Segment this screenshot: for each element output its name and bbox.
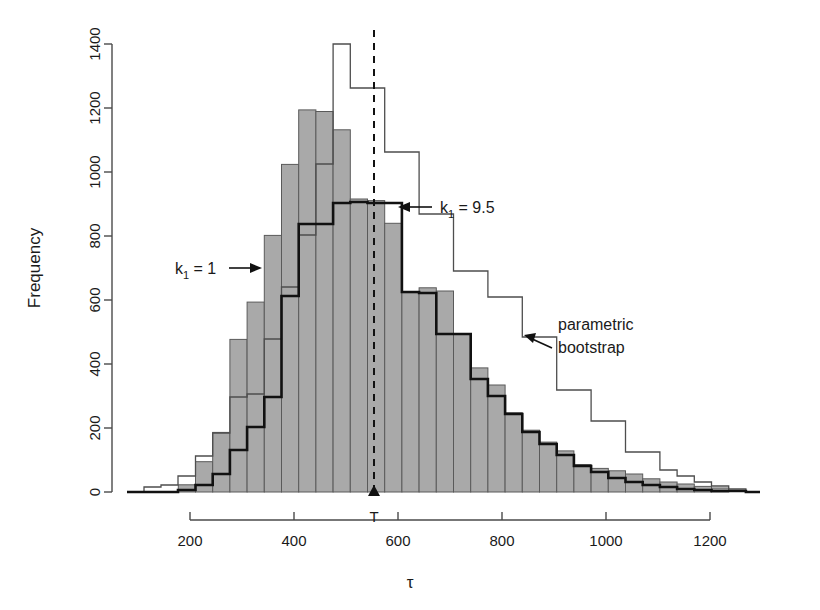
- x-tick-label: 400: [281, 532, 306, 549]
- x-axis: 200 400 600 800 1000 1200 τ: [177, 512, 726, 592]
- histogram-figure: 1400 1200 1000 800 600 400 200 0 Frequen…: [0, 0, 820, 610]
- chart-svg: 1400 1200 1000 800 600 400 200 0 Frequen…: [0, 0, 820, 610]
- series-parametric-bootstrap-bars: [178, 110, 728, 492]
- x-tick-label: 1200: [693, 532, 726, 549]
- annotation-parametric-bootstrap-line2: bootstrap: [558, 339, 625, 356]
- y-axis-title: Frequency: [25, 227, 44, 308]
- x-axis-title: τ: [407, 573, 414, 592]
- y-tick-label: 1200: [86, 91, 103, 124]
- y-tick-label: 800: [86, 223, 103, 248]
- y-tick-label: 0: [86, 488, 103, 496]
- observed-statistic-label: T: [369, 508, 378, 525]
- annotation-k1-1-text: k1 = 1: [175, 260, 216, 281]
- x-tick-label: 600: [385, 532, 410, 549]
- y-tick-label: 400: [86, 351, 103, 376]
- annotation-k1-9p5: k1 = 9.5: [398, 199, 495, 220]
- y-tick-label: 1000: [86, 155, 103, 188]
- annotation-k1-1: k1 = 1: [175, 260, 262, 281]
- x-tick-label: 1000: [589, 532, 622, 549]
- y-tick-label: 1400: [86, 27, 103, 60]
- x-tick-label: 800: [489, 532, 514, 549]
- y-axis: 1400 1200 1000 800 600 400 200 0 Frequen…: [25, 27, 112, 496]
- x-tick-label: 200: [177, 532, 202, 549]
- annotation-parametric-bootstrap: parametric bootstrap: [524, 316, 634, 356]
- y-tick-label: 200: [86, 415, 103, 440]
- y-tick-label: 600: [86, 287, 103, 312]
- annotation-parametric-bootstrap-line1: parametric: [558, 316, 634, 333]
- annotation-k1-9p5-text: k1 = 9.5: [440, 199, 495, 220]
